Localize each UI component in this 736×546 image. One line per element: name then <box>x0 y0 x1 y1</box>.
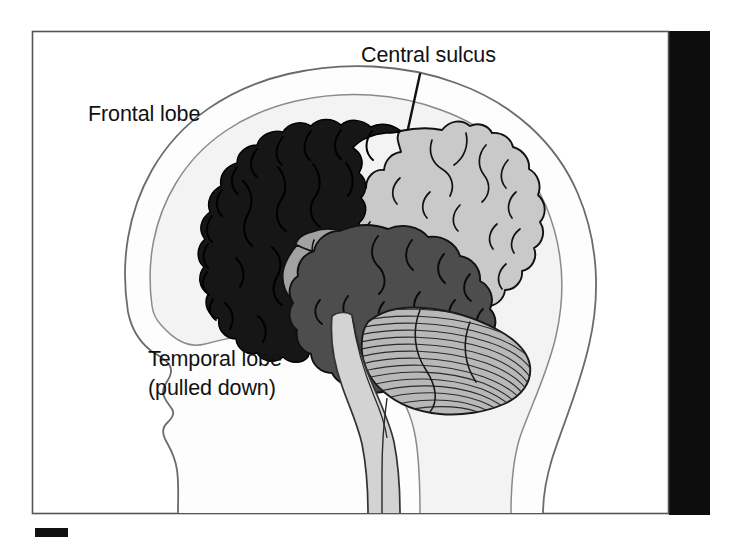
page-edge-bar <box>669 31 710 515</box>
label-temporal-lobe-line2: (pulled down) <box>148 376 276 400</box>
label-frontal-lobe: Frontal lobe <box>88 102 200 126</box>
label-temporal-lobe-line1: Temporal lobe <box>148 347 282 371</box>
scale-bar-mark <box>35 528 68 537</box>
figure-root: Central sulcus Frontal lobe Temporal lob… <box>0 0 736 546</box>
label-central-sulcus: Central sulcus <box>361 43 496 67</box>
brain-anatomy-figure: Central sulcus Frontal lobe Temporal lob… <box>0 0 736 546</box>
